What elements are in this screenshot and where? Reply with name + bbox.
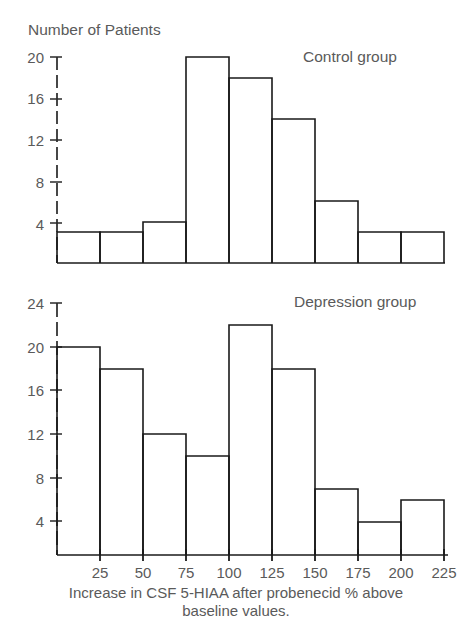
x-tick-label: 225: [431, 564, 456, 581]
bar-200-225: [401, 232, 444, 263]
y-tick-label: 16: [27, 90, 44, 107]
top-y-tick-marks: [50, 57, 62, 223]
bar-50-75: [143, 222, 186, 263]
x-tick-label: 25: [92, 564, 109, 581]
figure-canvas: Number of Patients Control group 20 16 1…: [0, 0, 473, 641]
top-y-tick-labels: 20 16 12 8 4: [27, 49, 44, 233]
bar-75-100: [186, 456, 229, 555]
x-tick-label: 50: [135, 564, 152, 581]
bar-175-200: [358, 522, 401, 555]
x-tick-label: 200: [388, 564, 413, 581]
bar-125-150: [272, 119, 315, 263]
bar-200-225: [401, 500, 444, 555]
y-tick-label: 24: [27, 295, 44, 312]
bar-175-200: [358, 232, 401, 263]
y-tick-label: 12: [27, 426, 44, 443]
panel-depression-group: Depression group 24 20 16 12 8 4: [27, 293, 456, 619]
bar-125-150: [272, 369, 315, 555]
bar-150-175: [315, 489, 358, 555]
panel-title-depression: Depression group: [294, 293, 416, 310]
panel-control-group: Number of Patients Control group 20 16 1…: [27, 21, 445, 263]
y-tick-label: 20: [27, 49, 44, 66]
x-axis-caption-line2: baseline values.: [182, 602, 290, 619]
x-tick-label: 75: [178, 564, 195, 581]
x-tick-label: 175: [345, 564, 370, 581]
bar-25-50: [100, 369, 143, 555]
bar-0-25: [57, 347, 100, 555]
bar-0-25: [57, 232, 100, 263]
x-axis-caption: Increase in CSF 5-HIAA after probenecid …: [69, 584, 403, 619]
bottom-histogram-bars: [57, 325, 444, 555]
top-histogram-bars: [57, 57, 444, 263]
bar-25-50: [100, 232, 143, 263]
bar-100-125: [229, 325, 272, 555]
histogram-figure: Number of Patients Control group 20 16 1…: [0, 0, 473, 641]
y-tick-label: 16: [27, 382, 44, 399]
bottom-y-tick-marks: [50, 303, 62, 521]
bar-75-100: [186, 57, 229, 263]
y-tick-label: 4: [36, 216, 44, 233]
y-axis-title: Number of Patients: [28, 21, 161, 38]
y-tick-label: 4: [36, 513, 44, 530]
y-tick-label: 20: [27, 339, 44, 356]
bottom-y-tick-labels: 24 20 16 12 8 4: [27, 295, 44, 530]
y-tick-label: 8: [36, 174, 44, 191]
x-axis-caption-line1: Increase in CSF 5-HIAA after probenecid …: [69, 584, 403, 601]
bar-100-125: [229, 78, 272, 263]
y-tick-label: 8: [36, 470, 44, 487]
bar-50-75: [143, 434, 186, 555]
bottom-x-tick-labels: 25 50 75 100 125 150 175 200 225: [92, 564, 457, 581]
bar-150-175: [315, 201, 358, 263]
x-tick-label: 150: [302, 564, 327, 581]
panel-title-control: Control group: [303, 48, 397, 65]
y-tick-label: 12: [27, 132, 44, 149]
x-tick-label: 100: [216, 564, 241, 581]
x-tick-label: 125: [259, 564, 284, 581]
